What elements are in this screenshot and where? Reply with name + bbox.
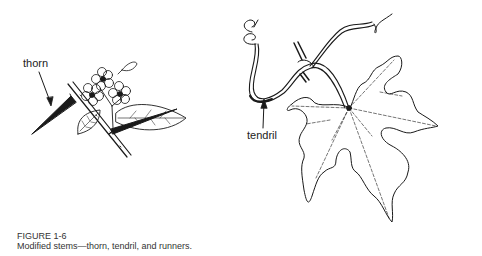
tendril-label: tendril [247, 129, 277, 141]
figure-caption-text: Modified stems—thorn, tendril, and runne… [17, 241, 192, 251]
figure-number: FIGURE 1-6 [17, 231, 192, 241]
thorn-label: thorn [23, 57, 48, 69]
figure-illustration [0, 0, 482, 256]
vine-leaf-drawing [244, 14, 438, 222]
figure-page: thorn tendril FIGURE 1-6 Modified stems—… [0, 0, 482, 256]
figure-caption: FIGURE 1-6 Modified stems—thorn, tendril… [17, 231, 192, 251]
thorn-branch-drawing [32, 62, 186, 157]
